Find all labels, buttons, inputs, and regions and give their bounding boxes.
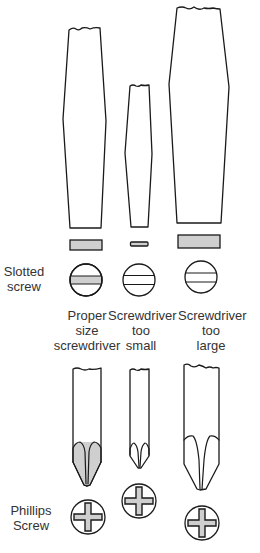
phillips-screw-label-line-1: Phillips — [4, 503, 58, 518]
phillips-screwdriver-too-small — [130, 369, 149, 468]
caption-too-large-line-3: large — [178, 338, 244, 353]
slotted-screw-label-line-2: screw — [2, 279, 46, 294]
phillips-screw-head-too-small — [122, 484, 156, 518]
phillips-screw-label: Phillips Screw — [4, 503, 58, 533]
phillips-screw-head-too-large — [185, 506, 219, 540]
slotted-screw-head-too-large — [185, 261, 217, 293]
caption-too-small: Screwdriver too small — [108, 308, 174, 353]
caption-too-small-line-1: Screwdriver — [108, 308, 174, 323]
caption-too-large-line-1: Screwdriver — [178, 308, 244, 323]
slotted-screw-label-line-1: Slotted — [2, 264, 46, 279]
blade-tip-section-too-large — [178, 235, 220, 248]
phillips-screwdriver-proper — [73, 368, 101, 486]
caption-too-large-line-2: too — [178, 323, 244, 338]
caption-too-large: Screwdriver too large — [178, 308, 244, 353]
phillips-screw-head-proper — [71, 500, 105, 534]
blade-tip-section-proper — [70, 240, 102, 250]
slotted-screwdriver-too-large — [169, 7, 229, 223]
phillips-screw-label-line-2: Screw — [4, 518, 58, 533]
phillips-screwdriver-too-large — [184, 364, 219, 490]
slotted-screw-label: Slotted screw — [2, 264, 46, 294]
slotted-screwdriver-too-small — [125, 85, 152, 227]
slotted-screw-head-too-small — [123, 264, 155, 296]
caption-too-small-line-2: too — [108, 323, 174, 338]
slotted-screwdriver-proper — [63, 28, 106, 228]
caption-too-small-line-3: small — [108, 338, 174, 353]
slotted-screw-head-proper — [70, 264, 102, 296]
blade-tip-section-too-small — [131, 242, 149, 246]
